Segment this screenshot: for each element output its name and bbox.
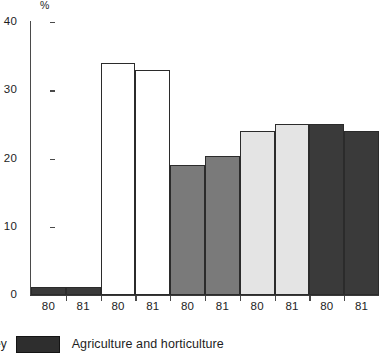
- x-axis-tick-label: 80: [42, 301, 55, 313]
- bar: [135, 70, 170, 295]
- y-axis-tick-label: 0: [10, 289, 25, 301]
- x-axis-tick-mark: [66, 296, 67, 301]
- y-axis-tick-label: 10: [4, 221, 25, 233]
- x-axis-tick-mark: [344, 296, 345, 301]
- bar: [31, 287, 66, 295]
- bar: [240, 131, 275, 295]
- y-axis-tick-label: 30: [4, 85, 25, 97]
- bar: [309, 124, 344, 295]
- chart-page: % 010203040 80818081808180818081 ey Agri…: [0, 0, 379, 363]
- legend-entry-label: Agriculture and horticulture: [72, 338, 224, 351]
- bar: [344, 131, 379, 295]
- x-axis-tick-mark: [205, 296, 206, 301]
- bar: [275, 124, 310, 295]
- x-axis-tick-label: 80: [181, 301, 194, 313]
- x-axis-tick-label: 81: [77, 301, 90, 313]
- x-axis-tick-label: 81: [146, 301, 159, 313]
- legend-swatch-agriculture: [16, 336, 60, 353]
- y-axis-title: %: [40, 0, 49, 11]
- bar-chart: % 010203040 80818081808180818081: [0, 0, 379, 330]
- x-axis-tick-label: 80: [320, 301, 333, 313]
- x-axis-tick-mark: [275, 296, 276, 301]
- x-axis-tick-label: 81: [285, 301, 298, 313]
- x-axis-tick-label: 80: [111, 301, 124, 313]
- chart-legend: ey Agriculture and horticulture: [0, 333, 224, 355]
- bar: [66, 287, 101, 295]
- x-axis-tick-mark: [135, 296, 136, 301]
- legend-key-label: ey: [0, 338, 7, 350]
- x-axis-tick-mark: [309, 296, 310, 301]
- x-axis-tick-mark: [170, 296, 171, 301]
- x-axis-tick-label: 80: [251, 301, 264, 313]
- x-axis-tick-label: 81: [216, 301, 229, 313]
- x-axis-tick-mark: [101, 296, 102, 301]
- x-axis-tick-label: 81: [355, 301, 368, 313]
- y-axis-tick-label: 40: [4, 16, 25, 28]
- bar: [205, 156, 240, 295]
- bar: [170, 165, 205, 295]
- x-axis-tick-mark: [240, 296, 241, 301]
- bar: [101, 63, 136, 295]
- plot-area: [31, 22, 379, 295]
- y-axis-tick-label: 20: [4, 153, 25, 165]
